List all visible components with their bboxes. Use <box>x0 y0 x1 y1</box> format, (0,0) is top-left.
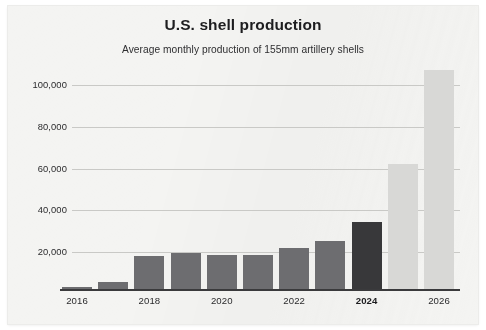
y-axis-tick-label: 20,000 <box>0 246 67 257</box>
x-axis-tick-label-2018: 2018 <box>125 295 173 306</box>
x-axis-tick-label-2024: 2024 <box>343 295 391 306</box>
bar-2020 <box>207 255 237 289</box>
plot-area: 20,00040,00060,00080,000100,000 20162018… <box>0 0 486 330</box>
x-axis-tick-label-2026: 2026 <box>415 295 463 306</box>
bar-2018 <box>134 256 164 289</box>
bar-2021 <box>243 255 273 289</box>
bar-2019 <box>171 253 201 289</box>
bar-2017 <box>98 282 128 289</box>
chart-screenshot: U.S. shell production Average monthly pr… <box>0 0 486 330</box>
gridline <box>72 127 460 128</box>
x-axis-tick-label-2022: 2022 <box>270 295 318 306</box>
x-axis-line <box>60 289 460 291</box>
x-axis-tick-label-2016: 2016 <box>53 295 101 306</box>
x-axis-tick-label-2020: 2020 <box>198 295 246 306</box>
y-axis-tick-label: 100,000 <box>0 79 67 90</box>
bar-2023 <box>315 241 345 289</box>
gridline <box>72 85 460 86</box>
bar-2026 <box>424 70 454 289</box>
bar-2022 <box>279 248 309 289</box>
y-axis-tick-label: 80,000 <box>0 121 67 132</box>
bar-2025 <box>388 164 418 289</box>
y-axis-tick-label: 60,000 <box>0 163 67 174</box>
bar-2024 <box>352 222 382 289</box>
y-axis-tick-label: 40,000 <box>0 204 67 215</box>
